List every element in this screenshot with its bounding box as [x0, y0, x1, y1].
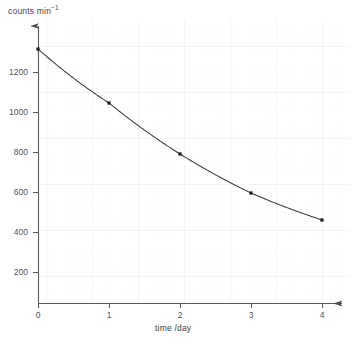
- x-axis-title: time /day: [155, 323, 191, 333]
- grid-lines: [38, 20, 350, 303]
- y-axis-title-exponent: −1: [51, 4, 59, 11]
- y-axis-title: counts min−1: [8, 4, 59, 16]
- y-tick-label-800: 800: [0, 147, 28, 157]
- decay-curve-chart: counts min−1 time /day 1200 1000 800 600…: [0, 0, 354, 344]
- x-tick-label-2: 2: [173, 310, 187, 320]
- origin-label: 0: [31, 310, 45, 320]
- data-point-3: [249, 191, 252, 194]
- data-point-1: [107, 101, 110, 104]
- y-tick-label-1200: 1200: [0, 67, 28, 77]
- y-tick-label-1000: 1000: [0, 107, 28, 117]
- x-tick-label-1: 1: [102, 310, 116, 320]
- y-tick-label-600: 600: [0, 187, 28, 197]
- data-point-2: [178, 152, 181, 155]
- x-tick-label-3: 3: [244, 310, 258, 320]
- y-axis-title-text: counts min: [8, 6, 51, 16]
- x-tick-label-4: 4: [315, 310, 329, 320]
- y-tick-label-200: 200: [0, 267, 28, 277]
- y-tick-label-400: 400: [0, 227, 28, 237]
- chart-canvas: [0, 0, 354, 344]
- data-point-4: [320, 218, 323, 221]
- data-point-0: [36, 47, 39, 50]
